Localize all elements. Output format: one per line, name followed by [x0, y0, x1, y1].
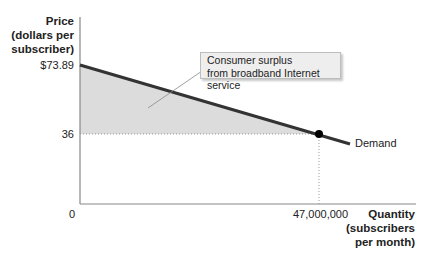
callout-line-2: from broadband Internet service	[207, 67, 340, 92]
demand-label: Demand	[355, 137, 397, 149]
equilibrium-point	[315, 130, 323, 138]
y-tick-high: $73.89	[40, 59, 74, 71]
y-axis-title-3: subscriber)	[11, 43, 74, 55]
consumer-surplus-callout: Consumer surplus from broadband Internet…	[200, 52, 341, 79]
x-axis-title-3: per month)	[355, 236, 415, 248]
x-tick-label: 47,000,000	[293, 208, 348, 220]
y-axis-title-1: Price	[46, 15, 74, 27]
callout-line-1: Consumer surplus	[207, 54, 340, 67]
x-axis-title-2: (subscribers	[346, 222, 415, 234]
x-axis-title-1: Quantity	[368, 208, 415, 220]
y-axis-title-2: (dollars per	[11, 29, 74, 41]
origin-label: 0	[69, 208, 75, 220]
y-tick-mid: 36	[62, 128, 74, 140]
